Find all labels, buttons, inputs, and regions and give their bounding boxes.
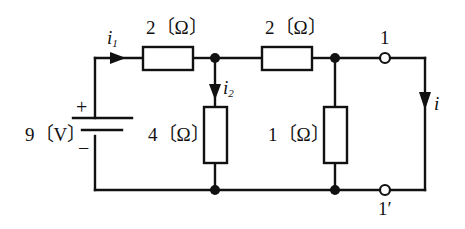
arrowhead-i <box>419 92 431 110</box>
current-label-i: i <box>434 94 439 115</box>
current-label-i1: i1 <box>107 28 118 49</box>
junction-node-b <box>330 53 340 63</box>
circuit-diagram: 2〔Ω〕 2〔Ω〕 4〔Ω〕 1〔Ω〕 9〔V〕 + − i1 i2 i 1 1… <box>0 0 465 229</box>
resistor-label-2ohm-right: 2〔Ω〕 <box>265 18 327 37</box>
terminal-label-1-prime: 1′ <box>378 199 392 218</box>
terminal-circle-1-prime <box>380 185 390 195</box>
junction-node-d <box>330 185 340 195</box>
circuit-schematic-svg <box>0 0 465 229</box>
junction-node-c <box>210 185 220 195</box>
current-label-i1-subscript: 1 <box>112 37 118 49</box>
resistor-label-4ohm: 4〔Ω〕 <box>148 125 210 144</box>
current-label-i-symbol: i <box>434 93 439 114</box>
resistor-box-2ohm-right <box>262 47 312 70</box>
terminal-label-1: 1 <box>380 28 390 47</box>
source-plus-sign: + <box>76 97 87 117</box>
arrowhead-i2 <box>209 84 221 100</box>
junction-node-a <box>210 53 220 63</box>
resistor-label-1ohm: 1〔Ω〕 <box>268 125 330 144</box>
resistor-box-2ohm-left <box>143 47 193 70</box>
current-label-i2-subscript: 2 <box>228 87 234 99</box>
current-label-i2: i2 <box>223 78 234 99</box>
resistor-label-2ohm-left: 2〔Ω〕 <box>146 18 208 37</box>
arrowhead-i1 <box>110 52 126 64</box>
source-minus-sign: − <box>78 138 89 158</box>
terminal-circle-1 <box>380 53 390 63</box>
